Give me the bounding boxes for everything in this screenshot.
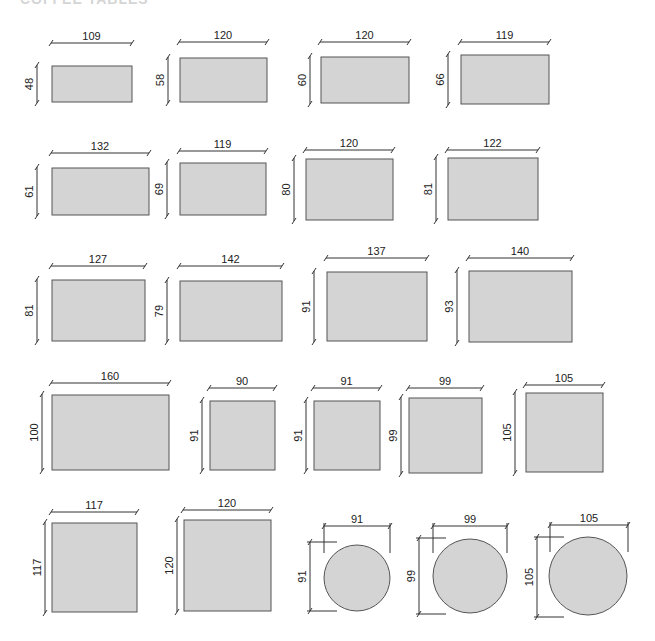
table-top xyxy=(526,393,603,472)
height-label: 81 xyxy=(23,304,35,316)
width-label: 132 xyxy=(91,140,109,152)
table-top xyxy=(314,401,380,470)
width-label: 105 xyxy=(580,512,598,524)
height-label: 91 xyxy=(296,570,308,582)
width-label: 91 xyxy=(340,375,352,387)
height-label: 99 xyxy=(405,570,417,582)
width-label: 90 xyxy=(236,375,248,387)
table-top xyxy=(461,55,549,104)
round-table: 9999 xyxy=(405,513,509,617)
width-label: 122 xyxy=(483,137,501,149)
rect-table: 9091 xyxy=(188,375,277,474)
height-label: 66 xyxy=(434,73,446,85)
height-label: 93 xyxy=(443,300,455,312)
round-table: 105105 xyxy=(523,512,630,620)
rect-table: 105105 xyxy=(501,372,605,476)
width-label: 105 xyxy=(555,372,573,384)
height-label: 61 xyxy=(23,185,35,197)
rect-table: 120120 xyxy=(163,497,273,615)
table-top xyxy=(306,159,393,220)
table-top xyxy=(52,280,145,341)
table-top xyxy=(549,537,627,615)
height-label: 120 xyxy=(163,556,175,574)
rect-table: 13791 xyxy=(300,245,429,345)
table-top xyxy=(409,398,482,473)
width-label: 120 xyxy=(340,137,358,149)
width-label: 117 xyxy=(85,499,103,511)
table-top xyxy=(180,58,267,102)
height-label: 80 xyxy=(280,183,292,195)
height-label: 81 xyxy=(422,183,434,195)
height-label: 117 xyxy=(31,559,43,577)
table-top xyxy=(324,545,390,611)
width-label: 91 xyxy=(351,513,363,525)
round-table: 9191 xyxy=(296,513,392,614)
table-top xyxy=(52,66,132,102)
height-label: 99 xyxy=(387,429,399,441)
width-label: 120 xyxy=(214,29,232,41)
width-label: 142 xyxy=(221,253,239,265)
height-label: 91 xyxy=(300,300,312,312)
table-top xyxy=(327,272,427,341)
width-label: 140 xyxy=(511,245,529,257)
width-label: 99 xyxy=(439,375,451,387)
table-top xyxy=(321,57,409,103)
rect-table: 160100 xyxy=(28,370,171,474)
height-label: 91 xyxy=(188,429,200,441)
width-label: 99 xyxy=(464,513,476,525)
rect-table: 12080 xyxy=(280,137,395,224)
height-label: 79 xyxy=(153,305,165,317)
height-label: 91 xyxy=(292,429,304,441)
width-label: 109 xyxy=(82,30,100,42)
rect-table: 12281 xyxy=(422,137,540,224)
rect-table: 9999 xyxy=(387,375,484,477)
table-top xyxy=(448,158,538,220)
width-label: 137 xyxy=(367,245,385,257)
height-label: 69 xyxy=(153,183,165,195)
width-label: 160 xyxy=(101,370,119,382)
rect-table: 10948 xyxy=(23,30,134,106)
height-label: 105 xyxy=(501,423,513,441)
table-top xyxy=(210,401,275,470)
width-label: 120 xyxy=(218,497,236,509)
rect-table: 12060 xyxy=(296,29,411,107)
table-top xyxy=(180,163,266,215)
rect-table: 12781 xyxy=(23,253,147,345)
height-label: 105 xyxy=(523,568,535,586)
rect-table: 13261 xyxy=(23,140,151,219)
rect-table: 9191 xyxy=(292,375,382,474)
table-top xyxy=(184,520,271,611)
width-label: 127 xyxy=(89,253,107,265)
rect-table: 12058 xyxy=(154,29,269,106)
table-top xyxy=(180,281,282,341)
coffee-table-drawing: 1094812058120601196613261119691208012281… xyxy=(0,0,655,641)
rect-table: 11969 xyxy=(153,138,268,219)
width-label: 120 xyxy=(355,29,373,41)
height-label: 60 xyxy=(296,74,308,86)
width-label: 119 xyxy=(496,29,514,41)
table-top xyxy=(433,539,507,613)
rect-table: 11966 xyxy=(434,29,551,108)
height-label: 48 xyxy=(23,78,35,90)
table-top xyxy=(469,271,572,342)
rect-table: 117117 xyxy=(31,499,139,616)
table-top xyxy=(52,523,137,612)
height-label: 58 xyxy=(154,74,166,86)
rect-table: 14093 xyxy=(443,245,574,346)
table-top xyxy=(52,395,169,470)
width-label: 119 xyxy=(214,138,232,150)
height-label: 100 xyxy=(28,423,40,441)
rect-table: 14279 xyxy=(153,253,284,345)
table-top xyxy=(52,168,149,215)
